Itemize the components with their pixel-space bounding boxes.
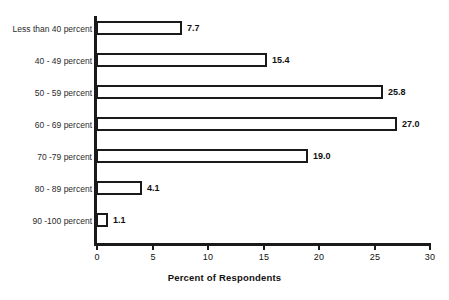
bar-value-4: 19.0 bbox=[313, 149, 331, 163]
x-tick-4 bbox=[318, 246, 320, 250]
x-tick-label-1: 5 bbox=[150, 252, 155, 262]
x-tick-label-2: 10 bbox=[203, 252, 213, 262]
bar-value-3: 27.0 bbox=[402, 117, 420, 131]
x-tick-label-4: 20 bbox=[314, 252, 324, 262]
bar-2 bbox=[96, 85, 383, 99]
y-axis-line bbox=[94, 16, 97, 246]
bar-value-1: 15.4 bbox=[272, 53, 290, 67]
bar-value-0: 7.7 bbox=[187, 21, 200, 35]
x-axis-title: Percent of Respondents bbox=[0, 272, 449, 283]
x-tick-label-3: 15 bbox=[259, 252, 269, 262]
bar-chart: Less than 40 percent 40 - 49 percent 50 … bbox=[0, 0, 449, 300]
x-tick-label-6: 30 bbox=[425, 252, 435, 262]
category-label-6: 90 -100 percent bbox=[32, 216, 96, 226]
bar-5 bbox=[96, 181, 142, 195]
x-tick-0 bbox=[96, 246, 98, 250]
bar-value-5: 4.1 bbox=[147, 181, 160, 195]
bar-6 bbox=[96, 213, 108, 227]
x-tick-2 bbox=[207, 246, 209, 250]
x-tick-label-5: 25 bbox=[370, 252, 380, 262]
x-tick-6 bbox=[429, 246, 431, 250]
bar-value-2: 25.8 bbox=[388, 85, 406, 99]
category-label-1: 40 - 49 percent bbox=[35, 56, 96, 66]
x-tick-3 bbox=[263, 246, 265, 250]
category-label-2: 50 - 59 percent bbox=[35, 88, 96, 98]
x-tick-5 bbox=[374, 246, 376, 250]
x-tick-label-0: 0 bbox=[94, 252, 99, 262]
category-label-3: 60 - 69 percent bbox=[35, 120, 96, 130]
bar-0 bbox=[96, 21, 182, 35]
bar-3 bbox=[96, 117, 397, 131]
bar-value-6: 1.1 bbox=[113, 213, 126, 227]
category-label-4: 70 -79 percent bbox=[37, 152, 96, 162]
bar-1 bbox=[96, 53, 267, 67]
x-tick-1 bbox=[152, 246, 154, 250]
category-label-5: 80 - 89 percent bbox=[35, 184, 96, 194]
category-label-0: Less than 40 percent bbox=[13, 24, 96, 34]
bar-4 bbox=[96, 149, 308, 163]
